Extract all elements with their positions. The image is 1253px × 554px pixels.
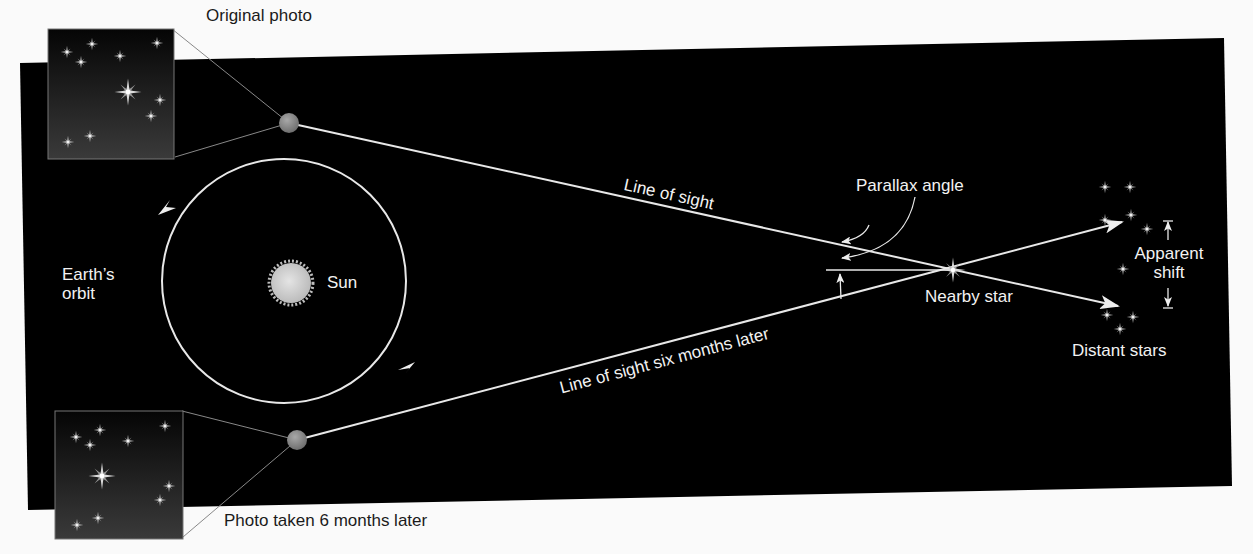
earth-original-icon bbox=[279, 113, 299, 133]
earths-orbit-label: Earth’s orbit bbox=[62, 266, 115, 303]
photo-later-label: Photo taken 6 months later bbox=[224, 512, 427, 531]
original-photo-label: Original photo bbox=[206, 7, 312, 26]
apparent-shift-line2: shift bbox=[1131, 264, 1207, 283]
earths-orbit-line1: Earth’s bbox=[62, 266, 115, 285]
nearby-star-label: Nearby star bbox=[925, 288, 1013, 307]
sun-label: Sun bbox=[327, 274, 357, 293]
space-background bbox=[20, 38, 1232, 510]
parallax-angle-label: Parallax angle bbox=[856, 177, 964, 196]
apparent-shift-line1: Apparent bbox=[1131, 245, 1207, 264]
distant-stars-label: Distant stars bbox=[1072, 342, 1166, 361]
earth-6-months-icon bbox=[287, 430, 307, 450]
parallax-diagram bbox=[0, 0, 1253, 554]
earths-orbit-line2: orbit bbox=[62, 285, 115, 304]
apparent-shift-label: Apparent shift bbox=[1131, 245, 1207, 282]
